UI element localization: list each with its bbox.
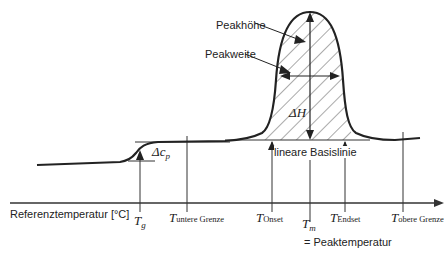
dsc-diagram: Peakhöhe Peakweite ΔH lineare Basislinie… — [0, 0, 444, 255]
delta-h-label: ΔH — [289, 105, 306, 121]
peak-height-label: Peakhöhe — [216, 19, 266, 31]
x-axis — [10, 199, 444, 207]
x-axis-label: Referenztemperatur [°C] — [10, 208, 129, 220]
baseline-label: lineare Basislinie — [274, 146, 357, 158]
tick-label-tg: Tg — [134, 213, 146, 230]
tick-label-t-obere: Tobere Grenze — [391, 210, 444, 226]
tick-label-t-endset: TEndset — [330, 210, 360, 226]
delta-cp-label: Δcp — [152, 144, 170, 161]
tick-label-t-onset: TOnset — [256, 210, 283, 226]
tick-label-tm: Tm — [302, 216, 316, 233]
peak-width-label: Peakweite — [205, 48, 256, 60]
peak-temperature-label: = Peaktemperatur — [304, 236, 392, 248]
tick-label-t-untere: Tuntere Grenze — [169, 210, 224, 226]
